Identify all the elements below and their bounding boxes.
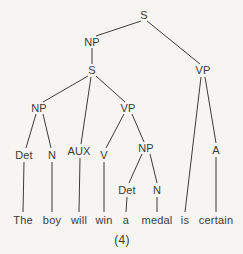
tree-node-np-2: NP [31,103,47,114]
terminal-word-a: a [123,215,129,226]
tree-node-np-3: NP [138,143,154,154]
terminal-word-certain: certain [199,215,233,226]
tree-node-a-1: A [212,145,220,156]
terminal-word-medal: medal [142,215,173,226]
tree-node-n-2: N [153,185,161,196]
tree-edge-s-embed-to-aux-1 [81,77,91,144]
tree-edge-np-2-to-det-1 [26,114,36,148]
terminal-word-the: The [13,215,33,226]
terminal-word-will: will [71,215,87,226]
tree-edge-np-3-to-det-2 [129,154,142,183]
tree-edge-det-1-to-the [23,162,24,212]
tree-node-s-top: S [140,10,148,21]
tree-node-vp-main: VP [195,65,210,76]
tree-edge-np-3-to-n-2 [150,154,157,183]
tree-edge-s-embed-to-vp-2 [96,76,125,102]
tree-node-det-1: Det [15,150,33,161]
terminal-word-is: is [181,215,189,226]
tree-edge-vp-2-to-v-1 [106,114,124,148]
terminal-word-win: win [95,215,112,226]
tree-node-aux-1: AUX [67,146,90,157]
tree-node-v-1: V [100,150,108,161]
tree-edge-np-2-to-n-1 [43,114,51,148]
syntax-tree-figure: SNPSVPNPVPDetNAUXVNPADetN Theboywillwina… [0,0,243,254]
tree-edge-vp-main-to-is [185,77,201,212]
tree-edge-aux-1-to-will [79,158,80,212]
tree-edge-s-top-to-vp-main [147,21,200,64]
tree-node-vp-2: VP [120,103,135,114]
tree-edge-s-top-to-np-1 [96,21,141,36]
terminal-word-boy: boy [43,215,61,226]
tree-node-det-2: Det [118,185,136,196]
tree-node-np-1: NP [84,37,100,48]
tree-node-s-embed: S [88,65,96,76]
tree-edge-det-2-to-a [126,197,127,212]
tree-node-n-1: N [48,150,56,161]
tree-edge-vp-main-to-a-1 [205,77,216,143]
tree-edge-vp-2-to-np-3 [132,114,144,142]
figure-caption: (4) [114,234,129,246]
tree-edge-s-embed-to-np-2 [43,76,88,102]
